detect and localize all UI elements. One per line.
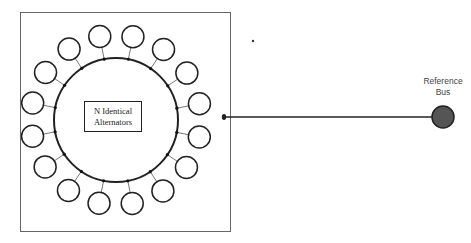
alternator-circle [122,26,144,48]
alternator-circle [58,38,80,60]
reference-bus-label-line1: Reference [410,76,471,87]
ring-tap [80,67,83,70]
alternator-circle [22,125,44,147]
center-label: N Identical Alternators [84,101,142,132]
center-label-line2: Alternators [85,117,141,128]
alternator-circle [22,92,44,114]
alternator-circle [153,39,175,61]
alternator-link [168,79,178,86]
alternator-link [167,155,177,162]
ring-tap [175,107,178,110]
alternator-link [75,171,82,181]
reference-bus-label-line2: Bus [410,87,471,98]
ring-tap [63,84,66,87]
alternator-circle [152,180,174,202]
ring-tap [149,67,152,70]
ring-tap [80,170,83,173]
ring-tap [149,170,152,173]
ring-tap [54,130,57,133]
alternator-circle [188,126,210,148]
alternator-circle [57,179,79,201]
ring-tap [126,179,129,182]
alternator-link [177,106,189,108]
alternator-link [55,79,65,86]
alternator-circle [34,156,56,178]
alternator-circle [176,62,198,84]
alternator-link [43,105,55,107]
ring-tap [175,131,178,134]
alternator-circle [121,192,143,214]
ring-tap [102,179,105,182]
alternator-link [150,172,157,182]
connection-node [222,114,226,120]
alternator-circle [35,61,57,83]
center-label-line1: N Identical [85,106,141,117]
alternator-link [151,59,158,69]
reference-bus-label: Reference Bus [410,76,471,98]
alternator-circle [188,93,210,115]
alternator-link [75,58,82,68]
ring-tap [103,58,106,61]
alternator-link [54,154,64,161]
diagram-canvas [0,0,471,243]
ring-tap [63,153,66,156]
ring-tap [54,106,57,109]
ring-tap [166,153,169,156]
ring-tap [166,84,169,87]
alternator-circle [175,157,197,179]
alternator-link [177,132,189,134]
alternator-link [102,47,104,59]
alternator-link [128,47,130,59]
stray-dot [252,40,254,42]
alternator-circle [89,26,111,48]
alternator-link [101,181,103,193]
alternator-link [43,132,55,134]
ring-tap [127,58,130,61]
reference-bus-node [432,106,454,128]
alternator-link [128,181,130,193]
alternator-circle [88,192,110,214]
